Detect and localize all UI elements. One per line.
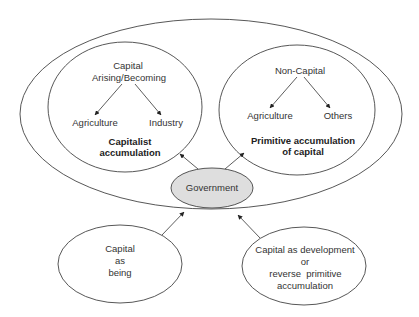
- capital-as-development-line3: reverse primitive: [258, 268, 353, 280]
- capitalist-caption-line2: accumulation: [90, 147, 170, 159]
- capital-as-being-line2: as: [95, 255, 145, 267]
- primitive-caption-line2: of capital: [268, 146, 338, 158]
- capital-as-development-line4: accumulation: [265, 280, 345, 292]
- arrow-development-to-government: [238, 215, 260, 238]
- agriculture-label-right: Agriculture: [245, 110, 295, 122]
- others-label: Others: [318, 110, 358, 122]
- arrow-being-to-government: [162, 212, 184, 235]
- government-label: Government: [178, 182, 246, 194]
- agriculture-label-left: Agriculture: [70, 117, 120, 129]
- arrow-government-to-capitalist: [180, 154, 198, 169]
- capital-label: Capital: [100, 60, 156, 72]
- capital-as-development-line2: or: [280, 256, 330, 268]
- non-capital-label: Non-Capital: [265, 65, 335, 77]
- capital-as-development-line1: Capital as development: [250, 244, 360, 256]
- arising-becoming-label: Arising/Becoming: [84, 72, 174, 84]
- diagram-canvas: [0, 0, 419, 317]
- industry-label: Industry: [146, 117, 186, 129]
- capital-as-being-line3: being: [95, 267, 145, 279]
- capital-as-being-line1: Capital: [95, 243, 145, 255]
- arrow-government-to-primitive: [225, 153, 244, 169]
